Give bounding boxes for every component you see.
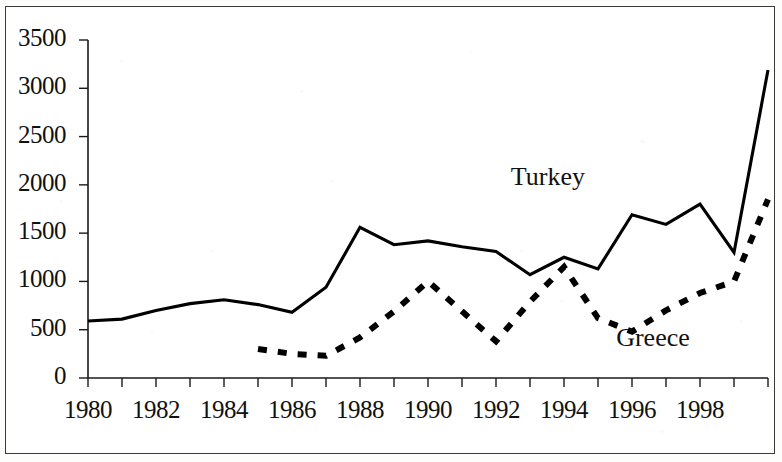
y-tick-label: 500 [0, 314, 66, 342]
y-tick-label: 1500 [0, 217, 66, 245]
chart-page: 0500100015002000250030003500 19801982198… [0, 0, 782, 462]
series-line-greece [258, 199, 768, 355]
y-axis-ticks [79, 40, 88, 378]
y-tick-label: 1000 [0, 265, 66, 293]
x-axis-ticks [88, 378, 768, 387]
series-line-turkey [88, 70, 768, 321]
y-tick-label: 2500 [0, 121, 66, 149]
y-tick-label: 0 [0, 362, 66, 390]
series-label-greece: Greece [616, 323, 690, 353]
data-series-group [88, 70, 768, 356]
series-label-turkey: Turkey [511, 162, 585, 192]
y-tick-label: 2000 [0, 169, 66, 197]
y-tick-label: 3500 [0, 24, 66, 52]
y-tick-label: 3000 [0, 72, 66, 100]
chart-plot-area [0, 0, 782, 462]
x-tick-label: 1998 [660, 396, 740, 424]
